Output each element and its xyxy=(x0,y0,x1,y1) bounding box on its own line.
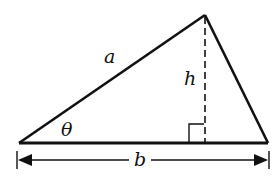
label-angle-theta: θ xyxy=(61,118,73,140)
base-arrowhead-right-icon xyxy=(254,154,268,166)
label-side-a: a xyxy=(104,45,115,67)
triangle-diagram: a h θ b xyxy=(0,0,280,179)
base-arrowhead-left-icon xyxy=(18,154,32,166)
right-side-line xyxy=(205,15,268,143)
right-angle-marker xyxy=(189,124,204,142)
label-base-b: b xyxy=(134,148,146,170)
side-a-line xyxy=(19,15,205,143)
label-height-h: h xyxy=(184,67,196,89)
